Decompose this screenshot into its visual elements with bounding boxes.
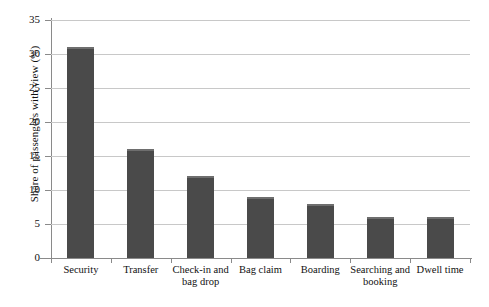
x-axis-tick-mark [470,258,471,263]
gridline [51,156,470,157]
y-axis-tick-label: 30 [16,48,40,59]
x-axis-tick-mark [111,258,112,263]
bar [187,176,214,258]
bar [247,197,274,258]
gridline [51,88,470,89]
bar-chart: Share of passengers with view (%) 051015… [0,0,489,307]
bar [67,47,94,258]
bar [427,217,454,258]
gridline [51,54,470,55]
y-axis-tick-label: 0 [16,252,40,263]
y-axis-tick-label: 25 [16,82,40,93]
plot-area [51,20,470,258]
y-axis-tick-label: 10 [16,184,40,195]
x-axis-tick-mark [231,258,232,263]
x-axis-tick-mark [51,258,52,263]
x-axis-category-label: Dwell time [404,264,476,276]
y-axis-tick-label: 20 [16,116,40,127]
y-axis-tick-label: 5 [16,218,40,229]
gridline [51,20,470,21]
y-axis-tick-label: 15 [16,150,40,161]
bar [307,204,334,258]
x-axis-line [40,258,472,259]
gridline [51,190,470,191]
x-axis-tick-mark [290,258,291,263]
x-axis-tick-mark [350,258,351,263]
bar [127,149,154,258]
bar [367,217,394,258]
x-axis-tick-mark [410,258,411,263]
x-axis-tick-mark [171,258,172,263]
gridline [51,122,470,123]
y-axis-tick-label: 35 [16,14,40,25]
